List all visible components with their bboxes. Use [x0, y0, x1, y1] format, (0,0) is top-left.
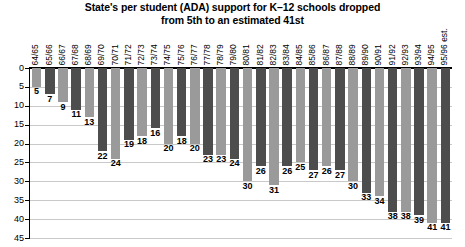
- x-axis-tick-label: 81/82: [255, 44, 264, 65]
- x-axis-label-slot: 94/95: [426, 0, 439, 65]
- x-axis-tick-label: 67/68: [71, 44, 80, 65]
- bar-value-label: 5: [34, 87, 39, 96]
- x-axis-tick-label: 95/96 est.: [440, 28, 449, 65]
- x-axis-tick-label: 92/93: [400, 44, 409, 65]
- bar[interactable]: 38: [401, 68, 410, 238]
- bar-fill: [322, 68, 331, 166]
- bar[interactable]: 24: [230, 68, 239, 238]
- x-axis-tick-label: 90/91: [374, 44, 383, 65]
- x-axis-tick-label: 72/73: [136, 44, 145, 65]
- bar[interactable]: 30: [348, 68, 357, 238]
- x-axis-label-slot: 93/94: [412, 0, 425, 65]
- bar[interactable]: 5: [32, 68, 41, 238]
- bar-value-label: 11: [71, 110, 81, 119]
- bar-value-label: 18: [177, 137, 187, 146]
- bar[interactable]: 18: [177, 68, 186, 238]
- x-axis-tick-label: 93/94: [413, 44, 422, 65]
- x-axis-label-slot: 65/66: [43, 0, 56, 65]
- bar[interactable]: 20: [164, 68, 173, 238]
- bar[interactable]: 26: [256, 68, 265, 238]
- bar[interactable]: 23: [216, 68, 225, 238]
- bar[interactable]: 23: [203, 68, 212, 238]
- bar[interactable]: 25: [296, 68, 305, 238]
- y-axis-tick-label: 10: [2, 101, 24, 110]
- x-axis-tick-label: 83/84: [282, 44, 291, 65]
- bar-value-label: 38: [401, 212, 411, 221]
- x-axis-label-slot: 67/68: [70, 0, 83, 65]
- bar-fill: [296, 68, 305, 162]
- bar-value-label: 31: [269, 186, 279, 195]
- bar-value-label: 30: [348, 182, 358, 191]
- bar-value-label: 16: [150, 129, 160, 138]
- y-axis-tick-label: 15: [2, 120, 24, 129]
- bar[interactable]: 9: [58, 68, 67, 238]
- x-axis-tick-label: 74/75: [163, 44, 172, 65]
- gridline: [30, 238, 452, 239]
- bar[interactable]: 41: [427, 68, 436, 238]
- bar[interactable]: 20: [190, 68, 199, 238]
- x-axis-label-slot: 79/80: [228, 0, 241, 65]
- x-axis-tick-label: 82/83: [268, 44, 277, 65]
- bar-fill: [230, 68, 239, 159]
- x-axis-label-slot: 68/69: [83, 0, 96, 65]
- bar[interactable]: 16: [151, 68, 160, 238]
- x-axis-tick-label: 66/67: [57, 44, 66, 65]
- bar[interactable]: 11: [71, 68, 80, 238]
- bar[interactable]: 27: [335, 68, 344, 238]
- x-axis-tick-label: 68/69: [84, 44, 93, 65]
- bar-fill: [124, 68, 133, 140]
- bar[interactable]: 30: [243, 68, 252, 238]
- bar-fill: [269, 68, 278, 185]
- y-axis-tick-label: 5: [2, 82, 24, 91]
- bar-fill: [348, 68, 357, 181]
- x-axis-label-slot: 77/78: [201, 0, 214, 65]
- bar[interactable]: 24: [111, 68, 120, 238]
- x-axis-tick-label: 91/92: [387, 44, 396, 65]
- y-axis-tick: [25, 125, 30, 126]
- x-axis-labels: 64/6565/6666/6767/6868/6969/7070/7171/72…: [30, 0, 452, 66]
- x-axis-tick-label: 76/77: [189, 44, 198, 65]
- bar-fill: [111, 68, 120, 159]
- bar-fill: [58, 68, 67, 102]
- bar[interactable]: 33: [362, 68, 371, 238]
- bar[interactable]: 13: [85, 68, 94, 238]
- bar[interactable]: 18: [137, 68, 146, 238]
- bar[interactable]: 26: [322, 68, 331, 238]
- bar-fill: [216, 68, 225, 155]
- x-axis-tick-label: 69/70: [97, 44, 106, 65]
- bar[interactable]: 27: [309, 68, 318, 238]
- bar-value-label: 33: [361, 193, 371, 202]
- bar-fill: [401, 68, 410, 212]
- bar-value-label: 27: [335, 171, 345, 180]
- y-axis-tick-label: 25: [2, 158, 24, 167]
- x-axis-tick-label: 80/81: [242, 44, 251, 65]
- bar[interactable]: 7: [45, 68, 54, 238]
- x-axis-label-slot: 74/75: [162, 0, 175, 65]
- x-axis-label-slot: 73/74: [149, 0, 162, 65]
- x-axis-tick-label: 86/87: [321, 44, 330, 65]
- x-axis-label-slot: 75/76: [175, 0, 188, 65]
- bar-fill: [32, 68, 41, 87]
- bar-value-label: 20: [190, 144, 200, 153]
- bar-value-label: 22: [98, 152, 108, 161]
- bar-value-label: 18: [137, 137, 147, 146]
- bar[interactable]: 38: [388, 68, 397, 238]
- bar[interactable]: 22: [98, 68, 107, 238]
- bar[interactable]: 34: [375, 68, 384, 238]
- y-axis-tick: [25, 238, 30, 239]
- x-axis-label-slot: 66/67: [56, 0, 69, 65]
- y-axis-tick: [25, 87, 30, 88]
- bar[interactable]: 39: [414, 68, 423, 238]
- bar-fill: [362, 68, 371, 193]
- bar-value-label: 30: [243, 182, 253, 191]
- bar-value-label: 9: [60, 103, 65, 112]
- x-axis-tick-label: 75/76: [176, 44, 185, 65]
- bar-fill: [335, 68, 344, 170]
- bar[interactable]: 19: [124, 68, 133, 238]
- x-axis-tick-label: 64/65: [31, 44, 40, 65]
- y-axis-tick: [25, 200, 30, 201]
- x-axis-tick-label: 85/86: [308, 44, 317, 65]
- bar[interactable]: 26: [282, 68, 291, 238]
- bar[interactable]: 31: [269, 68, 278, 238]
- bar[interactable]: 41: [441, 68, 450, 238]
